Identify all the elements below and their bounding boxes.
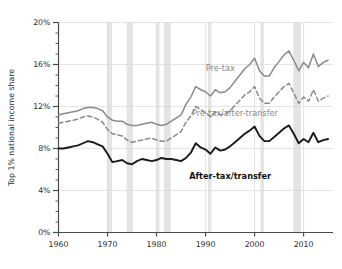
series-label-pre-tax-after-transfer: Pre-tax/after-transfer (192, 108, 279, 118)
y-tick-label: 0% (38, 228, 50, 237)
series-label-pre-tax: Pre-tax (206, 63, 235, 73)
recession-band (260, 23, 263, 233)
y-tick-label: 20% (33, 18, 50, 27)
y-tick-label: 4% (38, 186, 50, 195)
income-share-chart: Pre-taxPre-tax/after-transferAfter-tax/t… (0, 0, 342, 269)
y-tick-label: 12% (33, 102, 50, 111)
recession-band (164, 23, 171, 233)
recession-bands-group (107, 23, 301, 233)
x-tick-label: 1960 (49, 240, 69, 249)
tick-labels-group: 0%4%8%12%16%20%196019701980199020002010 (33, 18, 313, 249)
recession-band (127, 23, 133, 233)
series-labels-group: Pre-taxPre-tax/after-transferAfter-tax/t… (189, 63, 278, 181)
chart-canvas: Pre-taxPre-tax/after-transferAfter-tax/t… (0, 0, 342, 269)
x-tick-label: 2000 (245, 240, 265, 249)
y-tick-label: 8% (38, 144, 50, 153)
x-tick-label: 1970 (98, 240, 118, 249)
series-line-after-tax-transfer (59, 125, 329, 164)
x-tick-label: 1990 (196, 240, 216, 249)
gridlines-group (59, 23, 334, 233)
recession-band (293, 23, 301, 233)
recession-band (208, 23, 211, 233)
x-tick-label: 2010 (294, 240, 314, 249)
y-axis-title: Top 1% national income share (7, 69, 16, 187)
y-tick-label: 16% (33, 60, 50, 69)
series-label-after-tax-transfer: After-tax/transfer (189, 171, 272, 181)
recession-band (157, 23, 160, 233)
x-tick-label: 1980 (147, 240, 167, 249)
axis-title-group: Top 1% national income share (7, 69, 16, 187)
